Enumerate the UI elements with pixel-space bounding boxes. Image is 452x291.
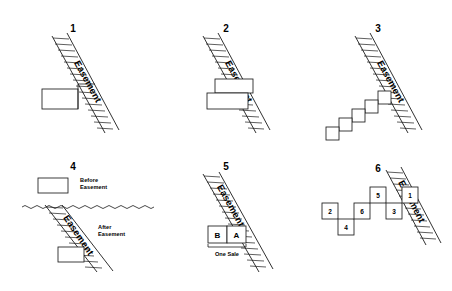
- panel-2-parcel-rect-lower: [207, 93, 248, 109]
- panel-6-number: 6: [375, 163, 381, 174]
- panel-3-step-1: [326, 127, 339, 140]
- panel-6: 6 Easement: [322, 163, 441, 245]
- panel-3-staircase: [326, 91, 391, 140]
- panel-5-lot-a-label: A: [234, 231, 240, 240]
- panel-1-parcel-rect: [42, 89, 78, 109]
- panel-2-number: 2: [223, 23, 229, 34]
- panel-1-easement-band: Easement: [52, 33, 119, 133]
- panel-3-step-2: [339, 118, 352, 131]
- panel-5-sale-label: One Sale: [215, 251, 239, 257]
- panel-4: 4 Before Easement: [22, 161, 154, 272]
- panel-4-before-rect: [38, 178, 68, 193]
- panel-1-number: 1: [70, 23, 76, 34]
- panel-6-parcel-4-label: 4: [344, 224, 348, 231]
- panel-5-lot-b-label: B: [215, 231, 221, 240]
- panel-5-easement-band: Easement: [203, 172, 273, 272]
- panel-2: 2: [203, 23, 270, 133]
- panel-6-parcels: 2 4 6 5 3 1: [322, 187, 418, 235]
- panel-4-after-rect: [58, 247, 84, 262]
- panel-4-before-label-line1: Before: [80, 177, 98, 183]
- panel-5-easement-label: Easement: [215, 182, 247, 229]
- panel-2-parcel-rect-upper: [215, 79, 253, 93]
- panel-5-sale-bracket: [208, 244, 246, 247]
- panel-3-step-4: [365, 100, 378, 113]
- panel-6-parcel-2-label: 2: [328, 208, 332, 215]
- panel-5-number: 5: [223, 161, 229, 172]
- panel-6-parcel-1-label: 1: [408, 192, 412, 199]
- panel-3-step-5: [378, 91, 391, 104]
- panel-4-after-label-line1: After: [98, 224, 112, 230]
- panel-5-lots: B A: [208, 226, 246, 243]
- figure-container: 1: [0, 0, 452, 291]
- panel-3-number: 3: [375, 23, 381, 34]
- panel-6-parcel-3-label: 3: [392, 208, 396, 215]
- panel-6-parcel-6-label: 6: [360, 208, 364, 215]
- panel-1: 1: [42, 23, 119, 133]
- panel-6-parcel-5-label: 5: [376, 192, 380, 199]
- panel-3: 3: [326, 23, 422, 140]
- panel-4-before-label-line2: Easement: [80, 184, 107, 190]
- panel-4-wavy-divider: [22, 206, 154, 209]
- panel-3-step-3: [352, 109, 365, 122]
- easement-diagram-svg: 1: [0, 0, 452, 291]
- panel-4-after-label-line2: Easement: [98, 231, 125, 237]
- panel-4-number: 4: [70, 161, 76, 172]
- panel-5: 5: [203, 161, 273, 272]
